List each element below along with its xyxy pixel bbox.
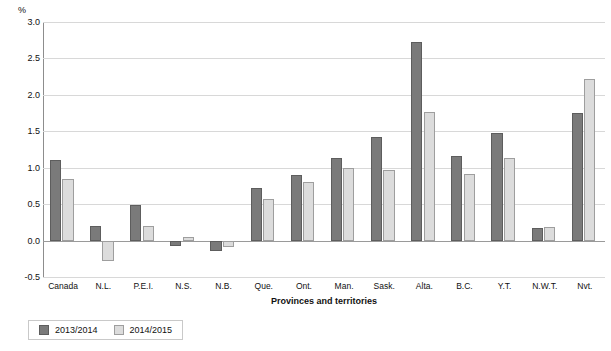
x-axis-tick-label: N.S. bbox=[163, 281, 203, 295]
legend-item-series-1: 2014/2015 bbox=[114, 325, 173, 335]
bar bbox=[544, 227, 555, 241]
bar bbox=[411, 42, 422, 240]
legend-item-series-0: 2013/2014 bbox=[39, 325, 98, 335]
bar bbox=[251, 188, 262, 240]
bar-group-bars bbox=[123, 22, 163, 277]
x-axis-tick-label: B.C. bbox=[444, 281, 484, 295]
y-axis-tick-label: -0.5 bbox=[14, 272, 40, 282]
bar-group bbox=[43, 22, 83, 277]
bar-group bbox=[123, 22, 163, 277]
bar-group-bars bbox=[163, 22, 203, 277]
bar-group-bars bbox=[444, 22, 484, 277]
bar-group-bars bbox=[83, 22, 123, 277]
bar bbox=[532, 228, 543, 240]
bar-group bbox=[204, 22, 244, 277]
bar bbox=[183, 237, 194, 241]
bar bbox=[90, 226, 101, 241]
bar-group-bars bbox=[565, 22, 605, 277]
chart-legend: 2013/2014 2014/2015 bbox=[28, 320, 183, 340]
bar bbox=[331, 158, 342, 241]
plot-area bbox=[43, 22, 605, 277]
x-axis-tick-label: Man. bbox=[324, 281, 364, 295]
x-axis-tick-label: Ont. bbox=[284, 281, 324, 295]
bar bbox=[371, 137, 382, 240]
bar bbox=[50, 160, 61, 240]
bar bbox=[343, 168, 354, 241]
bar-group bbox=[404, 22, 444, 277]
gridline bbox=[43, 277, 605, 278]
bar bbox=[263, 199, 274, 241]
bar bbox=[62, 179, 73, 241]
bar-group-bars bbox=[284, 22, 324, 277]
bar bbox=[210, 241, 221, 251]
bar-group bbox=[525, 22, 565, 277]
y-axis-tick-label: 0.5 bbox=[14, 199, 40, 209]
x-axis-tick-label: Nvt. bbox=[565, 281, 605, 295]
bar-group bbox=[83, 22, 123, 277]
bar bbox=[130, 205, 141, 241]
y-axis-tick-label: 3.0 bbox=[14, 17, 40, 27]
bar-group bbox=[364, 22, 404, 277]
x-axis-tick-labels: CanadaN.L.P.E.I.N.S.N.B.Que.Ont.Man.Sask… bbox=[43, 281, 605, 295]
bar-chart: % -0.50.00.51.01.52.02.53.0 CanadaN.L.P.… bbox=[0, 0, 611, 351]
bar-group-bars bbox=[244, 22, 284, 277]
x-axis-tick-label: Sask. bbox=[364, 281, 404, 295]
bar-groups bbox=[43, 22, 605, 277]
y-axis-tick-label: 2.0 bbox=[14, 90, 40, 100]
y-axis-tick-label: 1.5 bbox=[14, 126, 40, 136]
x-axis-tick-label: N.L. bbox=[83, 281, 123, 295]
bar bbox=[451, 156, 462, 241]
y-axis-tick-label: 1.0 bbox=[14, 163, 40, 173]
y-axis-tick-label: 2.5 bbox=[14, 53, 40, 63]
bar bbox=[491, 133, 502, 240]
bar bbox=[584, 79, 595, 241]
x-axis-tick-label: N.W.T. bbox=[525, 281, 565, 295]
bar-group bbox=[244, 22, 284, 277]
bar bbox=[464, 174, 475, 240]
bar-group-bars bbox=[404, 22, 444, 277]
bar-group bbox=[163, 22, 203, 277]
x-axis-tick-label: Canada bbox=[43, 281, 83, 295]
x-axis-tick-label: N.B. bbox=[204, 281, 244, 295]
bar bbox=[504, 158, 515, 240]
x-axis-tick-label: Alta. bbox=[404, 281, 444, 295]
bar-group-bars bbox=[485, 22, 525, 277]
bar bbox=[383, 170, 394, 241]
legend-label: 2014/2015 bbox=[130, 325, 173, 335]
legend-label: 2013/2014 bbox=[55, 325, 98, 335]
y-axis-unit-label: % bbox=[18, 5, 26, 15]
x-axis-title: Provinces and territories bbox=[43, 296, 605, 306]
bar bbox=[102, 241, 113, 261]
bar-group-bars bbox=[324, 22, 364, 277]
bar-group bbox=[444, 22, 484, 277]
bar-group bbox=[485, 22, 525, 277]
y-axis-tick-label: 0.0 bbox=[14, 236, 40, 246]
bar-group-bars bbox=[364, 22, 404, 277]
bar bbox=[291, 175, 302, 241]
bar-group bbox=[565, 22, 605, 277]
legend-swatch-icon bbox=[39, 325, 49, 335]
x-axis-tick-label: Y.T. bbox=[485, 281, 525, 295]
bar-group-bars bbox=[204, 22, 244, 277]
bar bbox=[223, 241, 234, 248]
bar-group-bars bbox=[525, 22, 565, 277]
y-axis-tick-labels: -0.50.00.51.01.52.02.53.0 bbox=[12, 22, 40, 277]
bar bbox=[572, 113, 583, 241]
bar-group bbox=[324, 22, 364, 277]
bar bbox=[143, 226, 154, 241]
bar bbox=[170, 241, 181, 246]
bar bbox=[303, 182, 314, 241]
bar-group bbox=[284, 22, 324, 277]
x-axis-tick-label: P.E.I. bbox=[123, 281, 163, 295]
legend-swatch-icon bbox=[114, 325, 124, 335]
x-axis-tick-label: Que. bbox=[244, 281, 284, 295]
bar-group-bars bbox=[43, 22, 83, 277]
bar bbox=[424, 112, 435, 241]
